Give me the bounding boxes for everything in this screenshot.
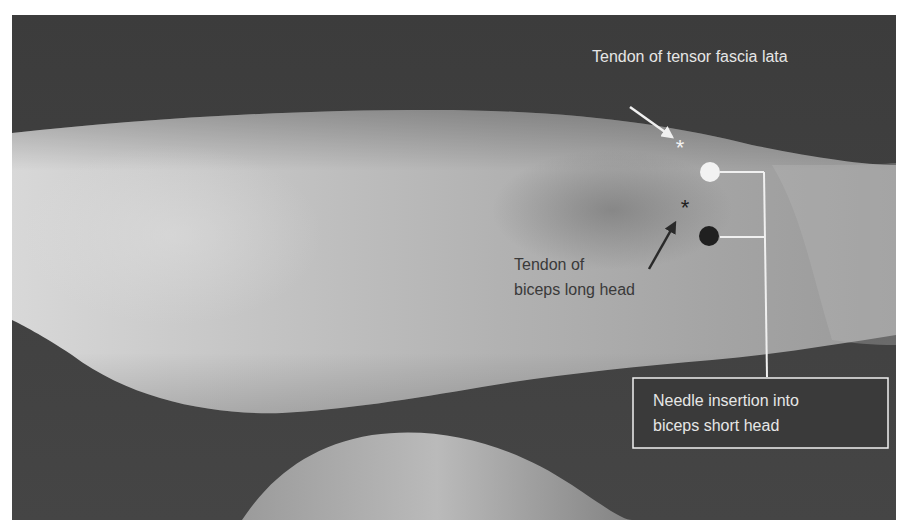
label-biceps-long-head-line2: biceps long head [514, 281, 635, 298]
black-dot-marker [699, 226, 719, 246]
label-needle-insertion-line2: biceps short head [653, 417, 779, 434]
white-dot-marker [700, 162, 720, 182]
label-tensor-fascia-lata: Tendon of tensor fascia lata [592, 48, 788, 65]
black-asterisk-icon: * [681, 195, 690, 220]
label-biceps-long-head-line1: Tendon of [514, 256, 585, 273]
white-asterisk-icon: * [676, 135, 685, 160]
label-needle-insertion-line1: Needle insertion into [653, 392, 799, 409]
needle-label-box [633, 378, 888, 448]
shadow-patch [492, 150, 732, 270]
highlight-patch [22, 145, 322, 325]
anatomy-photo: * * Tendon of tensor fascia lata Tendon … [12, 15, 896, 520]
photo-canvas: * * Tendon of tensor fascia lata Tendon … [12, 15, 896, 520]
